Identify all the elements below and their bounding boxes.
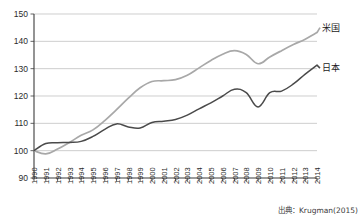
y-tick-label: 90 (19, 173, 29, 183)
x-tick-label: 2001 (160, 167, 169, 184)
x-tick-label: 1993 (66, 167, 75, 184)
x-tick-label: 2011 (278, 168, 287, 184)
y-tick-label: 130 (14, 64, 28, 74)
x-tick-label: 2005 (207, 167, 216, 184)
chart-container: 90100110120130140150 1990199119921993199… (0, 0, 362, 218)
x-tick-label: 2010 (266, 167, 275, 184)
y-axis: 90100110120130140150 (14, 9, 34, 183)
y-tick-label: 140 (14, 36, 28, 46)
legend-connector-japan (317, 65, 320, 68)
x-axis: 1990199119921993199419951996199719981999… (30, 167, 322, 184)
gridlines-group (34, 14, 317, 151)
x-tick-label: 2012 (290, 167, 299, 184)
legend-label-japan: 日本 (322, 62, 340, 73)
x-tick-label: 1994 (77, 167, 86, 184)
series-line-us (34, 33, 317, 154)
source-attribution: 出典：Krugman(2015) (278, 205, 358, 215)
legend-label-us: 米国 (322, 22, 340, 33)
x-tick-label: 2014 (313, 167, 322, 184)
y-tick-label: 150 (14, 9, 28, 19)
x-tick-label: 1995 (89, 167, 98, 184)
line-chart: 90100110120130140150 1990199119921993199… (0, 0, 362, 218)
x-tick-label: 1991 (42, 167, 51, 184)
x-tick-label: 2009 (254, 167, 263, 184)
x-tick-label: 1992 (54, 167, 63, 184)
y-tick-label: 100 (14, 146, 28, 156)
x-tick-label: 1999 (136, 167, 145, 184)
x-tick-label: 2002 (172, 167, 181, 184)
x-tick-label: 2006 (219, 167, 228, 184)
x-tick-label: 1998 (125, 167, 134, 184)
y-tick-label: 120 (14, 91, 28, 101)
x-tick-label: 2007 (231, 167, 240, 184)
x-tick-label: 2013 (301, 167, 310, 184)
legend-connector-us (317, 28, 320, 33)
data-series-group (34, 33, 317, 154)
x-tick-label: 1997 (113, 167, 122, 184)
x-tick-label: 2000 (148, 167, 157, 184)
x-tick-label: 2003 (183, 167, 192, 184)
x-tick-label: 1996 (101, 167, 110, 184)
x-tick-label: 2008 (242, 167, 251, 184)
chart-legend: 米国日本 (317, 22, 340, 74)
y-tick-label: 110 (14, 118, 28, 128)
x-tick-label: 1990 (30, 167, 39, 184)
x-tick-label: 2004 (195, 167, 204, 184)
